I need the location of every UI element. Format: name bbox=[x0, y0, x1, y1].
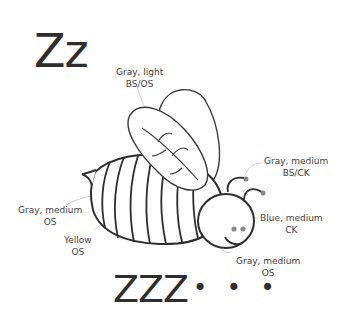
label-stripes: YellowOS bbox=[64, 234, 92, 258]
eye-icon bbox=[231, 226, 236, 231]
label-stinger: Gray, mediumOS bbox=[18, 204, 82, 228]
snore-text: ZZZ bbox=[113, 270, 188, 308]
antenna-tip-icon bbox=[244, 177, 249, 182]
label-wings: Gray, lightBS/OS bbox=[116, 66, 163, 90]
eye-icon bbox=[240, 226, 245, 231]
label-eyes: Blue, mediumCK bbox=[260, 212, 323, 236]
ellipsis: • • • bbox=[193, 276, 281, 300]
antenna-tip-icon bbox=[261, 191, 266, 196]
label-antennae: Gray, mediumBS/CK bbox=[264, 155, 328, 179]
